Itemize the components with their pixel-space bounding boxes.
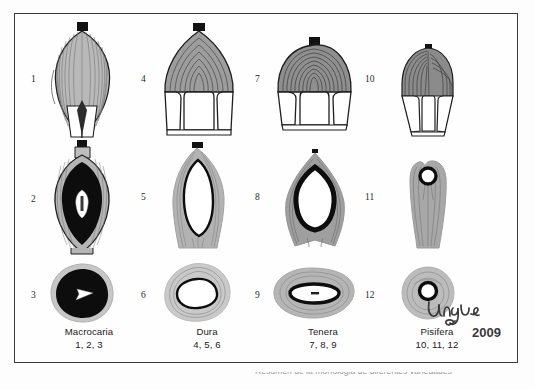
specimen-number-12: 12 <box>365 290 375 300</box>
drawing-longitudinal-pisifera <box>373 140 485 258</box>
specimen-3-cross-section: 3 <box>27 260 139 326</box>
variety-numbers: 7, 8, 9 <box>263 339 383 350</box>
variety-numbers: 1, 2, 3 <box>29 339 149 350</box>
drawing-longitudinal-macrocaria <box>27 140 139 258</box>
specimen-number-9: 9 <box>255 290 260 300</box>
specimen-7-whole-fruit: 7 <box>259 18 371 138</box>
column-tenera: 7 8 <box>259 14 371 324</box>
figure-frame: 1 2 <box>14 13 518 363</box>
column-dura: 4 <box>143 14 255 324</box>
variety-name: Dura <box>147 326 267 337</box>
caption-text: Resumen de la morfologia de diferentes v… <box>255 372 530 376</box>
specimen-number-11: 11 <box>365 192 374 202</box>
variety-numbers: 10, 11, 12 <box>377 339 497 350</box>
specimen-number-6: 6 <box>141 290 146 300</box>
specimen-11-longitudinal-section: 11 <box>373 140 485 258</box>
drawing-longitudinal-dura <box>143 140 255 258</box>
specimen-10-whole-fruit: 10 <box>373 18 485 138</box>
drawing-cross-tenera <box>259 260 371 326</box>
column-macrocaria: 1 2 <box>27 14 139 324</box>
specimen-number-8: 8 <box>255 192 260 202</box>
drawing-whole-fruit-macrocaria <box>27 18 139 142</box>
figure-canvas: 1 2 <box>0 0 535 389</box>
specimen-number-1: 1 <box>31 74 36 84</box>
specimen-number-2: 2 <box>31 194 36 204</box>
drawing-whole-fruit-pisifera <box>373 18 485 142</box>
specimen-1-whole-fruit: 1 <box>27 18 139 138</box>
drawing-whole-fruit-tenera <box>259 18 371 142</box>
artist-signature: 2009 <box>425 296 503 340</box>
drawing-cross-dura <box>143 260 255 326</box>
specimen-8-longitudinal-section: 8 <box>259 140 371 258</box>
signature-year: 2009 <box>472 325 501 340</box>
drawing-cross-macrocaria <box>27 260 139 326</box>
specimen-4-whole-fruit: 4 <box>143 18 255 138</box>
clipped-caption: Resumen de la morfologia de diferentes v… <box>255 372 530 386</box>
variety-label-tenera: Tenera 7, 8, 9 <box>263 326 383 350</box>
variety-numbers: 4, 5, 6 <box>147 339 267 350</box>
variety-label-macrocaria: Macrocaria 1, 2, 3 <box>29 326 149 350</box>
specimen-6-cross-section: 6 <box>143 260 255 326</box>
column-pisifera: 10 <box>373 14 485 324</box>
variety-name: Tenera <box>263 326 383 337</box>
specimen-number-4: 4 <box>141 74 146 84</box>
specimen-5-longitudinal-section: 5 <box>143 140 255 258</box>
specimen-number-10: 10 <box>365 74 375 84</box>
specimen-number-5: 5 <box>141 192 146 202</box>
specimen-9-cross-section: 9 <box>259 260 371 326</box>
specimen-number-7: 7 <box>255 74 260 84</box>
drawing-longitudinal-tenera <box>259 140 371 258</box>
variety-label-dura: Dura 4, 5, 6 <box>147 326 267 350</box>
specimen-number-3: 3 <box>31 290 36 300</box>
drawing-whole-fruit-dura <box>143 18 255 142</box>
variety-name: Macrocaria <box>29 326 149 337</box>
specimen-2-longitudinal-section: 2 <box>27 140 139 258</box>
